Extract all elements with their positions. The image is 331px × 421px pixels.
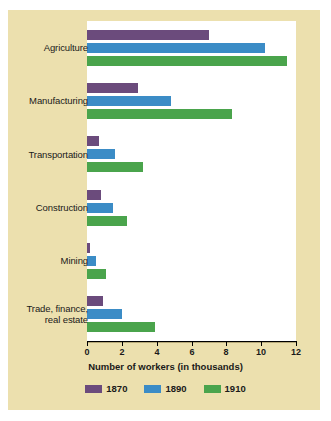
category-label-line: Construction [0, 202, 88, 214]
legend-label: 1910 [225, 383, 246, 394]
bar [87, 216, 127, 226]
category-label: Agriculture [0, 42, 88, 54]
legend-item: 1870 [85, 383, 127, 394]
legend-swatch [204, 385, 221, 393]
bar [87, 190, 101, 200]
bar-group [87, 21, 296, 74]
bar [87, 109, 232, 119]
bar [87, 296, 103, 306]
x-axis-tick-label: 0 [72, 347, 102, 357]
bar [87, 56, 287, 66]
bar-group [87, 128, 296, 181]
legend-swatch [85, 385, 102, 393]
category-label-line: Mining [0, 255, 88, 267]
category-label-line: Agriculture [0, 42, 88, 54]
bar [87, 269, 106, 279]
bar [87, 203, 113, 213]
bar-group [87, 234, 296, 287]
category-label-line: Trade, finance, [0, 303, 88, 315]
bar [87, 96, 171, 106]
x-axis-tick [261, 341, 262, 346]
bar-groups [87, 21, 296, 341]
bar [87, 309, 122, 319]
bar [87, 243, 90, 253]
x-axis-tick-label: 6 [177, 347, 207, 357]
legend-item: 1890 [144, 383, 186, 394]
bar [87, 30, 209, 40]
x-axis-tick [122, 341, 123, 346]
x-axis-tick [192, 341, 193, 346]
x-axis-tick-label: 12 [281, 347, 311, 357]
bar-group [87, 288, 296, 341]
x-axis-tick-label: 10 [246, 347, 276, 357]
x-axis-tick-label: 4 [142, 347, 172, 357]
legend-item: 1910 [204, 383, 246, 394]
category-label: Manufacturing [0, 95, 88, 107]
category-label: Transportation [0, 149, 88, 161]
legend-label: 1890 [165, 383, 186, 394]
category-label-line: real estate [0, 314, 88, 326]
bar [87, 83, 138, 93]
x-axis-tick [87, 341, 88, 346]
legend-label: 1870 [106, 383, 127, 394]
legend-swatch [144, 385, 161, 393]
bar [87, 256, 96, 266]
category-label: Mining [0, 255, 88, 267]
category-label-line: Transportation [0, 149, 88, 161]
x-axis-tick [157, 341, 158, 346]
bar [87, 43, 265, 53]
bar [87, 162, 143, 172]
x-axis-tick [296, 341, 297, 346]
x-axis-tick-label: 2 [107, 347, 137, 357]
category-label-line: Manufacturing [0, 95, 88, 107]
bar [87, 322, 155, 332]
bar-group [87, 74, 296, 127]
bar [87, 136, 99, 146]
category-label: Trade, finance,real estate [0, 303, 88, 326]
chart-figure: 024681012 Number of workers (in thousand… [0, 0, 331, 421]
bar [87, 149, 115, 159]
bar-group [87, 181, 296, 234]
category-label: Construction [0, 202, 88, 214]
chart-legend: 187018901910 [0, 383, 331, 394]
x-axis-tick-label: 8 [211, 347, 241, 357]
x-axis-tick [226, 341, 227, 346]
x-axis-label: Number of workers (in thousands) [0, 361, 331, 372]
